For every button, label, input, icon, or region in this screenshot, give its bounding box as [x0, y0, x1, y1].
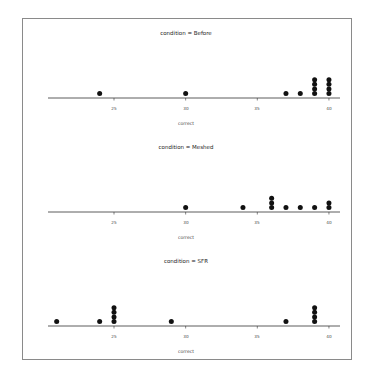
tick-label: 40 — [326, 220, 332, 225]
data-point — [112, 319, 117, 324]
data-points — [183, 196, 331, 210]
x-axis-label: correct — [178, 235, 194, 240]
tick-label: 30 — [183, 220, 189, 225]
data-point — [298, 91, 303, 96]
data-point — [183, 205, 188, 210]
data-point — [312, 77, 317, 82]
data-point — [312, 91, 317, 96]
panel-title: condition = Before — [160, 30, 212, 36]
data-point — [269, 200, 274, 205]
data-point — [312, 86, 317, 91]
tick-label: 25 — [111, 220, 117, 225]
panel-sfr: condition = SFR 25 30 35 40 correct — [48, 258, 340, 354]
data-points — [97, 77, 331, 96]
data-point — [183, 91, 188, 96]
tick-label: 35 — [254, 334, 260, 339]
data-point — [326, 91, 331, 96]
tick-label: 30 — [183, 106, 189, 111]
data-point — [326, 200, 331, 205]
data-point — [169, 319, 174, 324]
data-point — [326, 205, 331, 210]
panel-before: condition = Before 25 30 35 40 correct — [48, 30, 340, 126]
tick-label: 40 — [326, 106, 332, 111]
data-point — [312, 205, 317, 210]
data-point — [97, 319, 102, 324]
x-axis-label: correct — [178, 121, 194, 126]
data-point — [240, 205, 245, 210]
data-point — [312, 82, 317, 87]
data-point — [54, 319, 59, 324]
panel-meshed: condition = Meshed 25 30 35 40 correct — [48, 144, 340, 240]
tick-label: 35 — [254, 220, 260, 225]
data-point — [298, 205, 303, 210]
data-point — [269, 196, 274, 201]
tick-label: 25 — [111, 106, 117, 111]
data-point — [312, 319, 317, 324]
panel-title: condition = SFR — [164, 258, 208, 264]
data-point — [112, 314, 117, 319]
data-point — [112, 305, 117, 310]
tick-label: 40 — [326, 334, 332, 339]
data-point — [326, 77, 331, 82]
data-point — [326, 82, 331, 87]
panel-title: condition = Meshed — [159, 144, 214, 150]
data-point — [312, 305, 317, 310]
data-point — [312, 314, 317, 319]
tick-label: 25 — [111, 334, 117, 339]
x-axis-label: correct — [178, 349, 194, 354]
data-point — [112, 310, 117, 315]
data-point — [326, 86, 331, 91]
tick-label: 30 — [183, 334, 189, 339]
data-point — [312, 310, 317, 315]
data-point — [283, 319, 288, 324]
dot-plot-chart: condition = Before 25 30 35 40 correct c… — [0, 0, 371, 380]
data-point — [283, 205, 288, 210]
tick-label: 35 — [254, 106, 260, 111]
data-points — [54, 305, 317, 324]
data-point — [269, 205, 274, 210]
data-point — [97, 91, 102, 96]
data-point — [283, 91, 288, 96]
